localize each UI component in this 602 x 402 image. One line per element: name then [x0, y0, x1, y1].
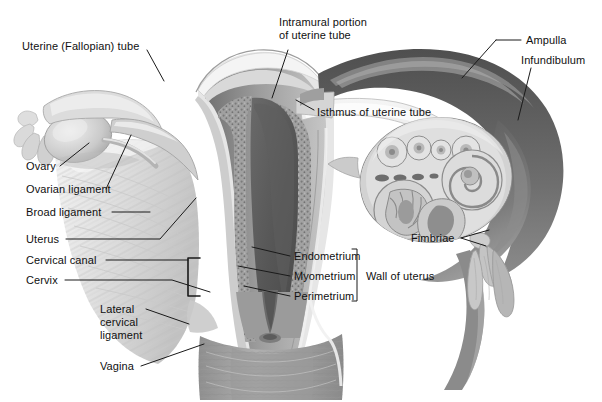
label-ovary: Ovary: [26, 160, 56, 173]
label-uterine-fallopian-tube: Uterine (Fallopian) tube: [22, 40, 139, 53]
label-perimetrium: Perimetrium: [294, 290, 354, 303]
label-broad-ligament: Broad ligament: [26, 206, 101, 219]
label-lateral-cervical-ligament: Lateral cervical ligament: [100, 303, 142, 342]
label-isthmus-of-uterine-tube: Isthmus of uterine tube: [317, 106, 431, 119]
label-ovarian-ligament: Ovarian ligament: [26, 183, 111, 196]
label-cervix: Cervix: [26, 274, 58, 287]
anatomy-illustration: [0, 0, 602, 402]
label-myometrium: Myometrium: [294, 270, 356, 283]
label-infundibulum: Infundibulum: [521, 54, 585, 67]
label-intramural-portion-of-uterine-tube: Intramural portion of uterine tube: [279, 16, 367, 42]
label-wall-of-uterus: Wall of uterus: [366, 270, 434, 283]
label-uterus: Uterus: [26, 233, 59, 246]
label-fimbriae: Fimbriae: [411, 232, 455, 245]
leader-uterine-fallopian-tube: [147, 50, 164, 81]
label-cervical-canal: Cervical canal: [26, 254, 96, 267]
anatomy-figure: Uterine (Fallopian) tube Intramural port…: [0, 0, 602, 402]
label-endometrium: Endometrium: [294, 250, 361, 263]
label-vagina: Vagina: [100, 360, 134, 373]
label-ampulla: Ampulla: [526, 34, 566, 47]
